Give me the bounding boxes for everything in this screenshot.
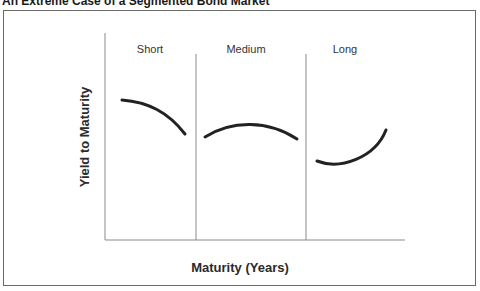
segment-label-long: Long bbox=[333, 43, 357, 55]
curve-long bbox=[317, 130, 386, 164]
y-axis-title: Yield to Maturity bbox=[77, 86, 92, 187]
segment-label-medium: Medium bbox=[226, 43, 265, 55]
segment-label-short: Short bbox=[137, 43, 163, 55]
curve-medium bbox=[205, 124, 297, 139]
x-axis-title: Maturity (Years) bbox=[191, 260, 289, 275]
chart-plot-area: Short Medium Long Yield to Maturity Matu… bbox=[0, 0, 480, 291]
curve-short bbox=[122, 100, 185, 134]
